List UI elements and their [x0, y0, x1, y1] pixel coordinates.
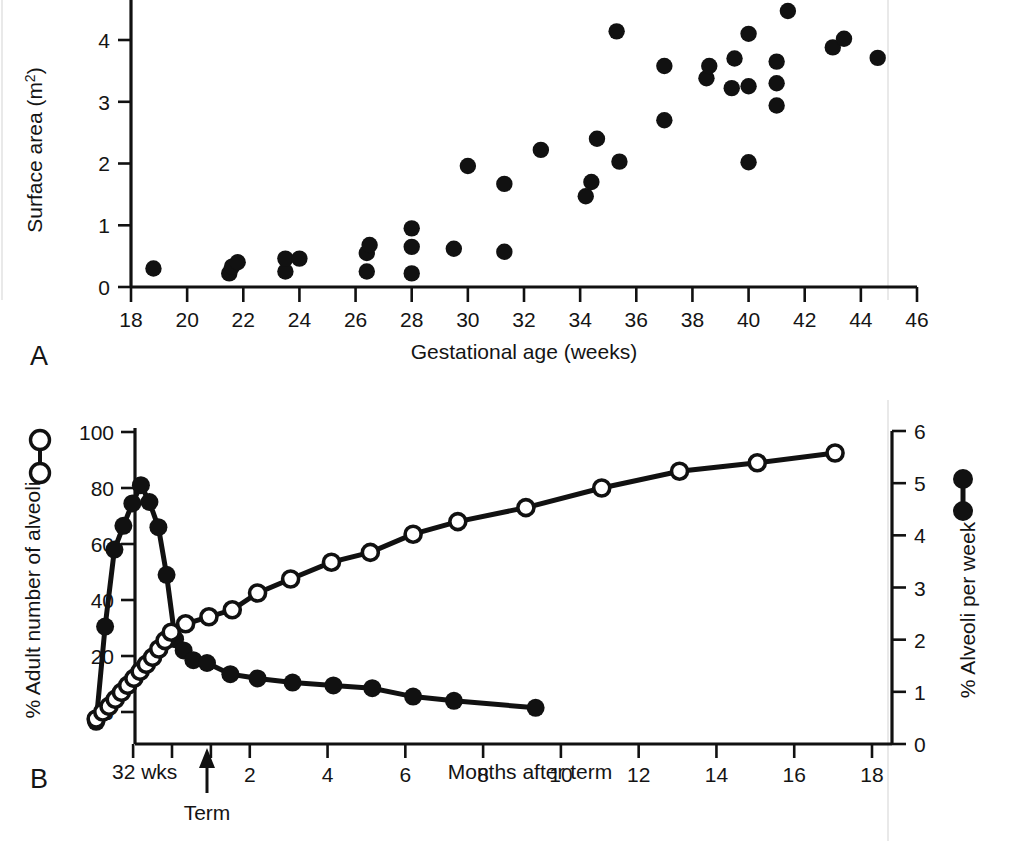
- panel-b-start-label: 32 wks: [112, 760, 177, 783]
- scatter-point: [583, 174, 599, 190]
- panel-b-right-y-axis-title: % Alveoli per week: [956, 521, 979, 698]
- panel-a-xtick-40: 40: [737, 308, 760, 331]
- data-marker-filled: [123, 494, 141, 512]
- panel-a-xtick-18: 18: [119, 308, 142, 331]
- scatter-point: [533, 142, 549, 158]
- panel-a-ytick-2: 2: [98, 152, 110, 175]
- scatter-point: [404, 265, 420, 281]
- data-marker-filled: [284, 674, 302, 692]
- scatter-point: [608, 23, 624, 39]
- panel-a-ylabel-main: Surface area (m: [23, 82, 46, 233]
- panel-a-x-tick-labels: 182022242628303234363840424446: [119, 308, 928, 331]
- term-arrow-icon: [199, 748, 215, 793]
- data-marker-filled: [249, 669, 267, 687]
- scatter-point: [726, 50, 742, 66]
- panel-a-xtick-28: 28: [400, 308, 423, 331]
- panel-a: 0 1 2 3 4 Surface area (m2) 182022242628…: [22, 0, 929, 371]
- panel-b-xtick-14: 14: [705, 763, 729, 786]
- panel-a-xtick-24: 24: [288, 308, 312, 331]
- data-marker-open: [178, 616, 194, 632]
- data-marker-filled: [445, 692, 463, 710]
- panel-b-xtick-18: 18: [860, 763, 883, 786]
- scatter-point: [229, 254, 245, 270]
- scatter-point: [740, 154, 756, 170]
- scatter-point: [460, 158, 476, 174]
- scatter-point: [404, 220, 420, 236]
- panel-a-ytick-1: 1: [98, 214, 110, 237]
- panel-a-xtick-34: 34: [568, 308, 592, 331]
- scatter-point: [496, 244, 512, 260]
- panel-b-xtick-12: 12: [627, 763, 650, 786]
- data-marker-open: [250, 585, 266, 601]
- figure-container: 0 1 2 3 4 Surface area (m2) 182022242628…: [0, 0, 1015, 841]
- scatter-point: [446, 241, 462, 257]
- panel-a-ytick-4: 4: [98, 29, 110, 52]
- panel-b-left-y-axis-title: % Adult number of alveoli: [21, 482, 44, 719]
- panel-a-y-ticks: [118, 40, 131, 287]
- panel-b-right-ytick-6: 6: [914, 420, 926, 443]
- panel-a-y-axis-title: Surface area (m2): [22, 67, 46, 232]
- data-marker-filled: [132, 476, 150, 494]
- scatter-point: [768, 97, 784, 113]
- panel-b-adult-number-markers: [88, 445, 843, 727]
- scatter-point: [404, 239, 420, 255]
- panel-b-ylabel-left: % Adult number of alveoli: [21, 482, 44, 719]
- panel-a-ytick-3: 3: [98, 91, 110, 114]
- scatter-point: [870, 50, 886, 66]
- panel-a-xtick-32: 32: [512, 308, 535, 331]
- scatter-point: [740, 26, 756, 42]
- data-marker-filled: [198, 654, 216, 672]
- panel-b-right-y-tick-labels: 0123456: [914, 420, 926, 756]
- data-marker-open: [672, 463, 688, 479]
- panel-b-x-ticks: [133, 744, 872, 758]
- panel-a-xtick-36: 36: [625, 308, 648, 331]
- panel-a-ylabel-sup: 2: [22, 74, 38, 82]
- panel-b-ylabel-right: % Alveoli per week: [956, 521, 979, 698]
- svg-text:Surface area (m2): Surface area (m2): [22, 67, 46, 232]
- panel-b-right-ytick-4: 4: [914, 524, 926, 547]
- panel-b-right-y-ticks: [892, 431, 906, 744]
- panel-a-ylabel-close: ): [23, 67, 46, 74]
- scatter-point: [359, 263, 375, 279]
- panel-b-letter: B: [30, 764, 48, 794]
- panel-b-xtick-2: 2: [244, 763, 256, 786]
- data-marker-filled: [149, 518, 167, 536]
- scatter-point: [496, 176, 512, 192]
- panel-a-scatter-points: [145, 3, 886, 282]
- scatter-point: [589, 131, 605, 147]
- panel-b-xtick-16: 16: [783, 763, 806, 786]
- data-marker-open: [450, 514, 466, 530]
- data-marker-filled: [96, 618, 114, 636]
- scatter-point: [656, 58, 672, 74]
- panel-a-ytick-0: 0: [98, 276, 110, 299]
- panel-a-xtick-26: 26: [344, 308, 367, 331]
- scatter-point: [291, 250, 307, 266]
- data-marker-open: [749, 455, 765, 471]
- data-marker-open: [224, 602, 240, 618]
- panel-a-xtick-22: 22: [232, 308, 255, 331]
- data-marker-filled: [363, 679, 381, 697]
- panel-b-x-axis-title: Months after term: [448, 760, 613, 783]
- data-marker-filled: [114, 517, 132, 535]
- scatter-point: [277, 250, 293, 266]
- data-marker-open: [405, 526, 421, 542]
- scatter-point: [361, 237, 377, 253]
- data-marker-open: [594, 480, 610, 496]
- panel-b-right-ytick-1: 1: [914, 681, 926, 704]
- scatter-point: [836, 31, 852, 47]
- panel-a-x-ticks: [131, 287, 917, 302]
- panel-b-term-label: Term: [184, 801, 231, 824]
- panel-b-left-ytick-100: 100: [79, 421, 114, 444]
- data-marker-open: [362, 544, 378, 560]
- figure-svg: 0 1 2 3 4 Surface area (m2) 182022242628…: [0, 0, 1015, 841]
- data-marker-filled: [404, 688, 422, 706]
- data-marker-filled: [221, 665, 239, 683]
- data-marker-open: [201, 609, 217, 625]
- panel-b-left-y-tick-labels: 020406080100: [79, 421, 114, 724]
- scatter-point: [768, 53, 784, 69]
- panel-a-x-axis-title: Gestational age (weeks): [411, 340, 637, 363]
- scatter-point: [740, 78, 756, 94]
- data-marker-filled: [158, 566, 176, 584]
- panel-a-xtick-44: 44: [849, 308, 873, 331]
- panel-a-xtick-46: 46: [905, 308, 928, 331]
